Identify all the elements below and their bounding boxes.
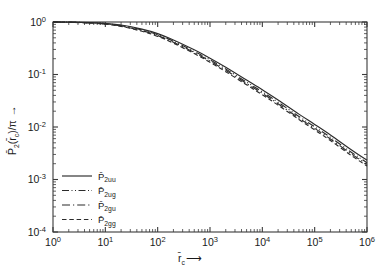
log-log-line-chart: 100101102103104105106 10010-110-210-310-… [0,0,386,277]
curve-dash-dot-dot [53,22,367,163]
y-tick-label: 10-1 [28,67,46,80]
x-tick-label: 101 [97,235,113,248]
chart-legend: P̄2uuP̄2ugP̄2guP̄2gg [62,171,116,228]
data-curves [53,22,367,166]
svg-text:P̄2(r̄c)/π→: P̄2(r̄c)/π→ [6,105,20,155]
legend-label: P̄2ug [98,185,116,199]
legend-label: P̄2uu [98,171,116,184]
x-tick-label: 105 [307,235,323,248]
y-tick-label: 10-2 [28,120,46,133]
legend-label: P̄2gu [98,200,116,214]
x-tick-label: 102 [150,235,166,248]
y-tick-label: 10-3 [28,172,46,185]
x-tick-label: 103 [202,235,218,248]
y-tick-label: 100 [30,15,46,28]
x-tick-labels: 100101102103104105106 [45,235,375,248]
y-axis-title: P̄2(r̄c)/π→ [6,105,20,155]
figure-container: 100101102103104105106 10010-110-210-310-… [0,0,386,277]
x-tick-label: 106 [359,235,375,248]
x-tick-label: 100 [45,235,61,248]
y-tick-label: 10-4 [28,225,46,238]
curve-dashed [53,22,367,166]
svg-text:r̄c⟶: r̄c⟶ [177,252,202,266]
curve-dash-dot [53,22,367,164]
curve-solid [53,22,367,160]
x-tick-label: 104 [254,235,270,248]
legend-label: P̄2gg [98,214,116,228]
y-tick-labels: 10010-110-210-310-4 [28,15,46,238]
x-axis-title: r̄c⟶ [177,252,202,266]
